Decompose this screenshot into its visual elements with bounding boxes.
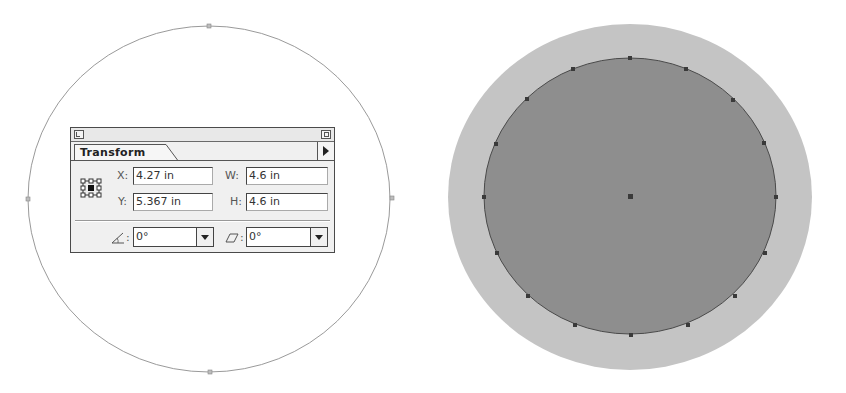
panel-divider <box>75 220 330 222</box>
x-label: X: <box>117 169 128 183</box>
transform-panel: Transform X: 4.27 in Y: 5.367 in W: 4.6 … <box>70 127 335 253</box>
rotate-dropdown-icon[interactable] <box>196 228 213 246</box>
reference-point-locator[interactable] <box>80 178 102 198</box>
anchor-point-top[interactable] <box>207 24 211 28</box>
rotate-angle-icon <box>111 232 125 244</box>
rotate-combo[interactable]: 0° <box>133 227 214 247</box>
anchor-point-bottom[interactable] <box>208 370 212 374</box>
panel-titlebar[interactable] <box>71 128 334 142</box>
panel-menu-arrow-icon[interactable] <box>317 142 334 160</box>
shear-icon <box>225 233 239 243</box>
h-label: H: <box>230 195 242 209</box>
panel-body: X: 4.27 in Y: 5.367 in W: 4.6 in H: 4.6 … <box>71 161 334 252</box>
shear-dropdown-icon[interactable] <box>310 228 327 246</box>
rotate-label: : <box>126 231 130 245</box>
rotate-value[interactable]: 0° <box>136 229 149 245</box>
w-label: W: <box>225 169 239 183</box>
tab-slant-edge <box>162 144 178 161</box>
y-field[interactable]: 5.367 in <box>133 193 213 211</box>
collapse-box-icon[interactable] <box>74 130 84 139</box>
y-label: Y: <box>118 195 127 209</box>
right-object[interactable] <box>448 24 812 370</box>
center-point <box>628 194 633 199</box>
anchor-point-left[interactable] <box>26 197 30 201</box>
tab-transform[interactable]: Transform <box>74 144 162 160</box>
shear-value[interactable]: 0° <box>249 229 262 245</box>
zoom-box-icon[interactable] <box>321 130 331 139</box>
h-field[interactable]: 4.6 in <box>246 193 328 211</box>
panel-tab-row: Transform <box>71 142 334 161</box>
anchor-point-right[interactable] <box>390 196 394 200</box>
w-field[interactable]: 4.6 in <box>246 167 328 185</box>
shear-combo[interactable]: 0° <box>246 227 328 247</box>
shear-label: : <box>240 231 244 245</box>
x-field[interactable]: 4.27 in <box>133 167 213 185</box>
